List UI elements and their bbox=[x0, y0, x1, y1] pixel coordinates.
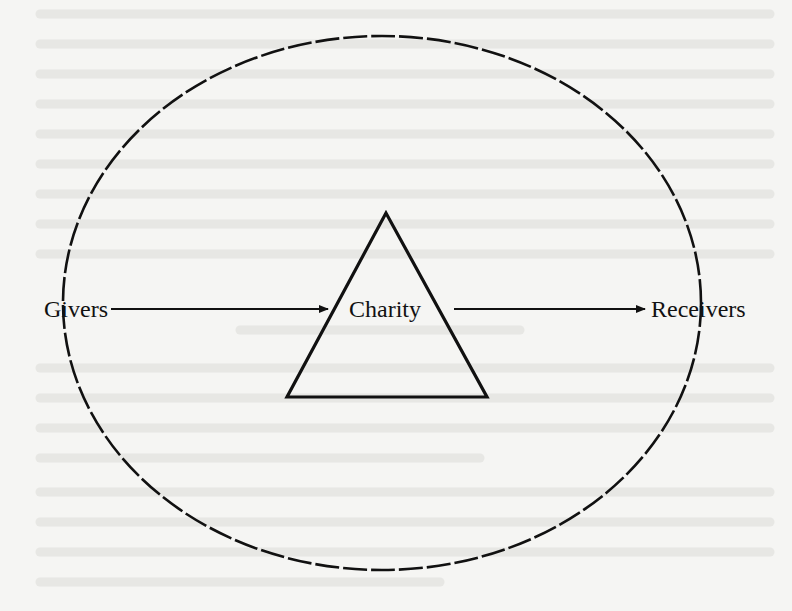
charity-flow-diagram: Givers Charity Receivers bbox=[0, 0, 792, 611]
receivers-label: Receivers bbox=[651, 296, 746, 322]
charity-label: Charity bbox=[349, 296, 421, 322]
diagram-canvas: Givers Charity Receivers bbox=[0, 0, 792, 611]
givers-label: Givers bbox=[44, 296, 108, 322]
